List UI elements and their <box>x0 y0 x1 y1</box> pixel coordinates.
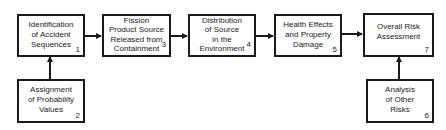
box-label: Analysis of Other Risks <box>385 85 415 117</box>
box-label: Fission Product Source Released from Con… <box>109 16 164 56</box>
box-label: Assignment of Probability Values <box>28 85 74 117</box>
box-number: 3 <box>162 40 166 49</box>
box-assignment-of-probability-values: Assignment of Probability Values 2 <box>17 79 85 123</box>
box-label: Distribution of Source in the Environmen… <box>200 16 245 56</box>
box-overall-risk-assessment: Overall Risk Assessment 7 <box>363 13 434 57</box>
box-number: 1 <box>76 45 80 54</box>
box-number: 2 <box>76 111 80 120</box>
box-number: 5 <box>333 45 337 54</box>
box-fission-product-source: Fission Product Source Released from Con… <box>102 14 171 57</box>
box-number: 4 <box>247 40 251 49</box>
box-analysis-of-other-risks: Analysis of Other Risks 6 <box>366 79 434 123</box>
box-label: Identification of Accident Sequences <box>29 20 74 52</box>
box-number: 6 <box>425 111 429 120</box>
box-identification-of-accident-sequences: Identification of Accident Sequences 1 <box>17 14 85 57</box>
box-label: Overall Risk Assessment <box>377 22 421 48</box>
box-distribution-of-source: Distribution of Source in the Environmen… <box>188 14 256 57</box>
box-label: Health Effects and Property Damage <box>283 20 333 52</box>
box-number: 7 <box>425 45 429 54</box>
box-health-effects-and-property-damage: Health Effects and Property Damage 5 <box>274 14 342 57</box>
